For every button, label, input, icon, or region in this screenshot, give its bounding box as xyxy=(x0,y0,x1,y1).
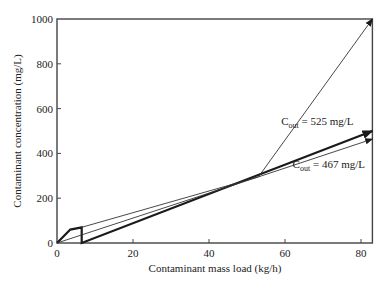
x-tick-label: 20 xyxy=(128,247,140,259)
series-line xyxy=(57,139,372,243)
series-line xyxy=(57,131,372,243)
x-tick-label: 60 xyxy=(280,247,292,259)
data-series xyxy=(57,19,372,243)
y-tick-label: 1000 xyxy=(31,13,54,25)
x-axis-label: Contaminant mass load (kg/h) xyxy=(149,262,282,275)
chart-canvas: 02040608002004006008001000 Cout = 525 mg… xyxy=(0,0,391,289)
x-tick-label: 0 xyxy=(54,247,60,259)
y-tick-label: 200 xyxy=(37,192,54,204)
y-tick-label: 0 xyxy=(48,237,54,249)
y-axis-label: Contaminant concentration (mg/L) xyxy=(11,54,24,208)
annotations: Cout = 525 mg/LCout = 467 mg/L xyxy=(281,115,365,173)
plot-frame xyxy=(57,19,372,243)
x-tick-label: 40 xyxy=(204,247,216,259)
y-tick-label: 400 xyxy=(37,147,54,159)
axis-ticks: 02040608002004006008001000 xyxy=(31,13,367,259)
series-line xyxy=(82,177,259,227)
cout-annotation: Cout = 525 mg/L xyxy=(281,115,354,130)
y-tick-label: 800 xyxy=(37,58,54,70)
y-tick-label: 600 xyxy=(37,103,54,115)
plot-border xyxy=(57,19,372,243)
x-tick-label: 80 xyxy=(356,247,368,259)
cout-annotation: Cout = 467 mg/L xyxy=(293,158,366,173)
